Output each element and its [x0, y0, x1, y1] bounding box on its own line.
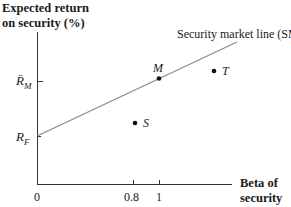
rm-symbol: R̄ — [16, 73, 24, 88]
rf-symbol: R — [16, 129, 24, 144]
x-axis-title: Beta of security — [240, 176, 282, 206]
rm-subscript: M — [24, 81, 32, 91]
point-t-label: T — [222, 64, 229, 79]
y-tick-label-rm: R̄M — [16, 73, 31, 91]
point-s-label: S — [143, 116, 149, 131]
x-axis-title-line2: security — [240, 191, 282, 206]
y-axis-title: Expected return on security (%) — [2, 1, 89, 31]
rf-subscript: F — [24, 137, 30, 147]
sml-annotation: Security market line (SML) — [177, 27, 291, 42]
y-axis-title-line2: on security (%) — [2, 16, 89, 31]
y-tick-label-rf: RF — [16, 129, 29, 147]
x-tick-label-0: 0 — [34, 190, 40, 205]
x-tick-label-08: 0.8 — [124, 190, 139, 205]
y-axis-title-line1: Expected return — [2, 1, 89, 16]
point-t — [212, 69, 217, 74]
point-s — [133, 121, 138, 126]
point-m — [157, 76, 162, 81]
point-m-label: M — [153, 61, 163, 76]
x-axis-title-line1: Beta of — [240, 176, 282, 191]
x-tick-label-1: 1 — [156, 190, 162, 205]
